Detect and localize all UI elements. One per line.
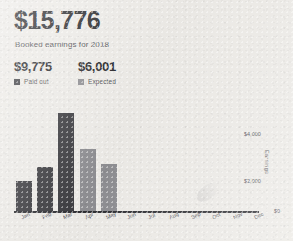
earnings-chart-card: $15,776 Booked earnings for 2018 $9,775 … (0, 0, 293, 241)
bar-feb[interactable] (37, 167, 53, 212)
legend-value-expected: $6,001 (78, 60, 116, 73)
legend-item-expected[interactable]: $6,001 Expected (78, 60, 116, 85)
expected-swatch-icon (78, 79, 84, 85)
bar-apr[interactable] (80, 149, 96, 212)
bar-jan[interactable] (16, 181, 32, 212)
page-subtitle: Booked earnings for 2018 (15, 40, 109, 49)
chart-legend: $9,775 Paid out $6,001 Expected (14, 60, 154, 96)
legend-value-paid-out: $9,775 (14, 60, 52, 73)
x-axis-line (14, 211, 259, 213)
x-tick-apr: Apr (84, 211, 94, 220)
legend-label-expected: Expected (88, 78, 116, 85)
paid-out-swatch-icon (14, 79, 20, 85)
x-tick-jul: Jul (147, 212, 156, 220)
bar-may[interactable] (101, 164, 117, 212)
x-axis-tick-labels: JanFebMarAprMayJunJulAugSepOctNovDec (14, 215, 273, 227)
y-tick-2000: $2,000 (244, 178, 261, 184)
y-tick-0: $0 (274, 208, 280, 214)
y-axis-tick-labels: $4,000 $2,000 $0 (244, 0, 293, 241)
legend-item-paid-out[interactable]: $9,775 Paid out (14, 60, 52, 85)
x-tick-oct: Oct (211, 211, 221, 220)
legend-label-paid-out: Paid out (24, 78, 49, 85)
page-title: $15,776 (14, 8, 100, 33)
y-tick-4000: $4,000 (244, 131, 261, 137)
y-axis-title: Earnings (264, 150, 270, 174)
bar-mar[interactable] (58, 113, 74, 212)
